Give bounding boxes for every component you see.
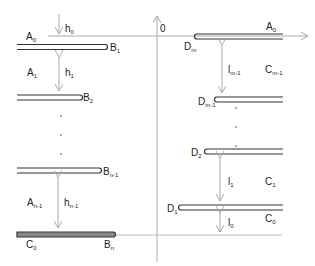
label-B2: B2 [83,93,93,104]
label-Bn: Bn [104,240,114,251]
label-hn-1: hn-1 [64,198,78,209]
label-h1: h1 [65,68,74,79]
label-l0: l0 [228,218,234,229]
label-C0-left: C0 [26,240,37,251]
left-plate-top [17,45,108,50]
label-D1: D1 [167,204,178,215]
diagram-canvas [0,0,315,266]
label-B1: B1 [110,43,120,54]
right-plate-m-1 [215,97,284,102]
label-A0-right: A0 [266,22,276,33]
left-ellipsis-dots [60,115,62,155]
label-C1: C1 [265,177,276,188]
right-ellipsis-dots [235,107,237,147]
right-plate-2 [205,149,284,154]
label-Dm-1: Dm-1 [198,97,216,108]
left-plate-n-1 [17,168,102,173]
origin-label: 0 [160,24,166,34]
label-D2: D2 [191,148,202,159]
left-plate-2 [17,95,83,100]
right-plate-1 [179,205,284,210]
label-An-1: An-1 [27,198,42,209]
label-A0-left: A0 [26,32,36,43]
label-h0: h0 [65,24,74,35]
label-Dm: Dm [184,42,196,53]
label-Bn-1: Bn-1 [103,167,118,178]
label-Cm-1: Cm-1 [265,65,283,76]
left-plate-bottom [17,232,116,237]
label-l1: l1 [228,177,234,188]
label-C0-right: C0 [265,214,276,225]
label-A1: A1 [27,68,37,79]
label-lm-1: lm-1 [228,65,241,76]
